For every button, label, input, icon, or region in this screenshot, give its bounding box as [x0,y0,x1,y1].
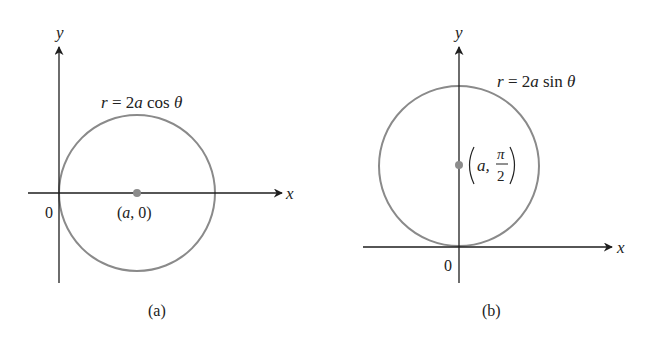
svg-text:2: 2 [497,168,505,184]
equation-label-b: r = 2a sin θ [497,72,575,91]
right-paren [510,147,515,184]
polar-circles-figure: y x 0 (a, 0) r = 2a cos θ (a) y x 0 a, π… [0,0,658,339]
caption-b: (b) [482,302,501,320]
equation-label-a: r = 2a cos θ [101,93,182,112]
center-point-a [133,189,141,197]
panel-b: y x 0 a, π 2 r = 2a sin θ (b) [363,23,625,320]
left-paren [470,147,475,184]
caption-a: (a) [148,302,166,320]
panel-a: y x 0 (a, 0) r = 2a cos θ (a) [28,23,294,320]
svg-text:π: π [497,146,505,162]
svg-text:a,: a, [477,156,490,175]
center-point-b [455,161,463,169]
origin-label-b: 0 [444,257,452,274]
y-axis-label-b: y [453,23,463,42]
origin-label-a: 0 [45,204,53,221]
center-label-b: a, π 2 [470,146,515,184]
center-label-a: (a, 0) [117,204,152,222]
y-axis-label-a: y [54,23,64,42]
x-axis-label-b: x [616,238,625,257]
x-axis-label-a: x [285,184,294,203]
